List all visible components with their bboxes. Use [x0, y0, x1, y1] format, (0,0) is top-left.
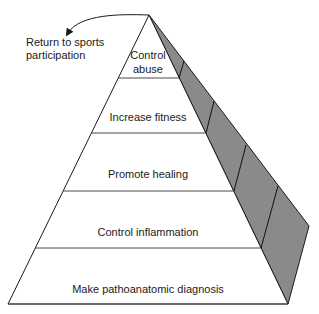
return-arrow [68, 15, 149, 33]
level-4-label: Increase fitness [109, 111, 187, 123]
annotation-line-1: Return to sports [26, 36, 105, 48]
level-1-label: Make pathoanatomic diagnosis [72, 283, 224, 295]
level-2-label: Control inflammation [98, 226, 199, 238]
level-3-label: Promote healing [108, 168, 188, 180]
annotation-line-2: participation [26, 49, 85, 61]
level-5-label-line-2: abuse [133, 63, 163, 75]
level-5-label-line-1: Control [130, 49, 165, 61]
pyramid-diagram: Return to sports participation Control a… [0, 0, 319, 314]
